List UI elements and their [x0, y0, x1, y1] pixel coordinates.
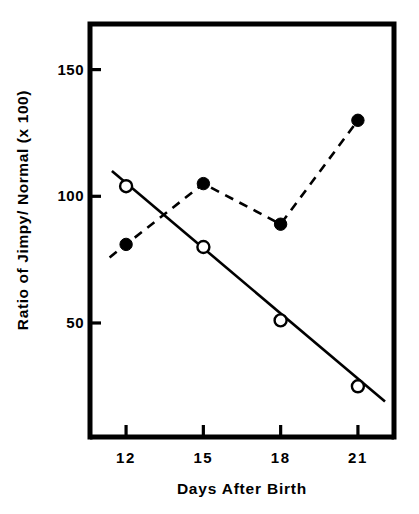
filled-circle-markers: [120, 114, 364, 250]
data-point-filled-15: [197, 177, 209, 189]
data-point-open-15: [197, 241, 209, 253]
data-point-filled-18: [274, 218, 286, 230]
data-point-open-18: [275, 314, 287, 326]
data-point-open-21: [352, 380, 364, 392]
axes-frame: [90, 24, 394, 437]
axis-box-outline: [90, 24, 394, 437]
regression-line: [112, 171, 385, 402]
data-point-open-12: [120, 180, 132, 192]
data-point-filled-21: [352, 114, 364, 126]
data-point-filled-12: [120, 238, 132, 250]
plot-area: [0, 0, 419, 514]
dashed-series-line: [110, 120, 358, 257]
open-circle-markers: [120, 180, 364, 392]
chart-figure: Ratio of Jimpy/ Normal (x 100) 15010050 …: [0, 0, 419, 514]
